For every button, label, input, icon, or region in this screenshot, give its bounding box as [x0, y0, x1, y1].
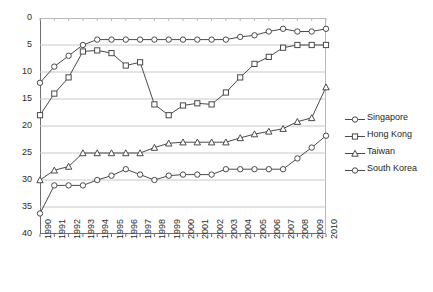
data-point: [66, 183, 71, 188]
x-axis-tick-label: 1999: [173, 219, 182, 239]
data-point: [180, 37, 185, 42]
data-point: [209, 37, 214, 42]
data-point: [252, 61, 257, 66]
data-point: [80, 42, 85, 47]
y-axis-tick-label: 10: [2, 67, 32, 76]
y-axis-tick-label: 0: [2, 13, 32, 22]
data-point: [180, 103, 185, 108]
data-point: [37, 113, 42, 118]
legend-label: South Korea: [367, 163, 417, 173]
x-axis-tick-label: 2007: [287, 219, 296, 239]
data-point: [295, 29, 300, 34]
data-point: [266, 167, 271, 172]
x-axis-tick-label: 2003: [230, 219, 239, 239]
data-point: [209, 102, 214, 107]
y-axis-tick-label: 35: [2, 202, 32, 211]
data-point: [109, 37, 114, 42]
y-axis-tick-label: 5: [2, 40, 32, 49]
data-point: [166, 173, 171, 178]
data-point: [152, 177, 157, 182]
data-point: [195, 101, 200, 106]
legend-item-singapore[interactable]: Singapore: [345, 108, 431, 125]
data-point: [352, 168, 357, 173]
legend-label: Taiwan: [367, 146, 395, 156]
data-point: [137, 172, 142, 177]
legend-item-south-korea[interactable]: South Korea: [345, 159, 431, 176]
triangle-marker-icon: [345, 145, 365, 156]
chart-legend: SingaporeHong KongTaiwanSouth Korea: [345, 108, 431, 176]
x-axis-tick-label: 2010: [330, 219, 339, 239]
data-point: [309, 29, 314, 34]
series-south-korea: [37, 133, 328, 216]
x-axis-tick-label: 1995: [116, 219, 125, 239]
data-point: [309, 145, 314, 150]
x-axis-tick-label: 2001: [201, 219, 210, 239]
data-point: [123, 63, 128, 68]
x-axis-tick-label: 1997: [144, 219, 153, 239]
legend-label: Singapore: [367, 112, 408, 122]
data-point: [52, 64, 57, 69]
x-axis-tick-label: 2000: [187, 219, 196, 239]
x-axis-tick-label: 2008: [301, 219, 310, 239]
data-point: [209, 172, 214, 177]
data-point: [52, 183, 57, 188]
x-axis-tick-label: 2002: [216, 219, 225, 239]
x-axis-tick-label: 2004: [244, 219, 253, 239]
series-hong-kong: [37, 42, 328, 117]
data-point: [66, 75, 71, 80]
data-point: [238, 167, 243, 172]
data-point: [223, 37, 228, 42]
data-point: [166, 37, 171, 42]
data-point: [95, 37, 100, 42]
x-axis-tick-label: 1992: [73, 219, 82, 239]
x-axis-tick-label: 2009: [316, 219, 325, 239]
data-point: [280, 26, 285, 31]
data-point: [281, 45, 286, 50]
data-point: [352, 134, 357, 139]
legend-item-taiwan[interactable]: Taiwan: [345, 142, 431, 159]
data-point: [252, 33, 257, 38]
data-point: [238, 75, 243, 80]
data-point: [295, 156, 300, 161]
data-point: [195, 37, 200, 42]
data-point: [123, 167, 128, 172]
circle-marker-icon: [345, 162, 365, 173]
data-point: [37, 211, 42, 216]
data-point: [309, 42, 314, 47]
y-axis-tick-label: 25: [2, 148, 32, 157]
data-point: [80, 183, 85, 188]
y-axis-tick-label: 40: [2, 229, 32, 238]
data-point: [266, 54, 271, 59]
data-point: [95, 48, 100, 53]
legend-label: Hong Kong: [367, 129, 412, 139]
data-point: [95, 177, 100, 182]
data-point: [223, 167, 228, 172]
data-point: [109, 173, 114, 178]
square-marker-icon: [345, 128, 365, 139]
data-point: [252, 167, 257, 172]
data-point: [323, 42, 328, 47]
data-point: [323, 26, 328, 31]
data-point: [309, 115, 315, 121]
data-point: [152, 102, 157, 107]
data-point: [195, 172, 200, 177]
data-point: [123, 37, 128, 42]
x-axis-tick-label: 1998: [158, 219, 167, 239]
data-point: [80, 49, 85, 54]
data-point: [323, 84, 329, 90]
legend-item-hong-kong[interactable]: Hong Kong: [345, 125, 431, 142]
circle-marker-icon: [345, 111, 365, 122]
data-point: [66, 53, 71, 58]
y-axis-tick-label: 15: [2, 94, 32, 103]
series-layer: [37, 26, 329, 216]
data-point: [280, 167, 285, 172]
x-axis-tick-label: 2005: [259, 219, 268, 239]
data-point: [323, 133, 328, 138]
line-chart: 0510152025303540 19901991199219931994199…: [0, 0, 433, 292]
y-axis-tick-label: 30: [2, 175, 32, 184]
data-point: [295, 42, 300, 47]
data-point: [180, 172, 185, 177]
x-axis-tick-label: 1991: [58, 219, 67, 239]
data-point: [137, 37, 142, 42]
x-axis-tick-label: 2006: [273, 219, 282, 239]
